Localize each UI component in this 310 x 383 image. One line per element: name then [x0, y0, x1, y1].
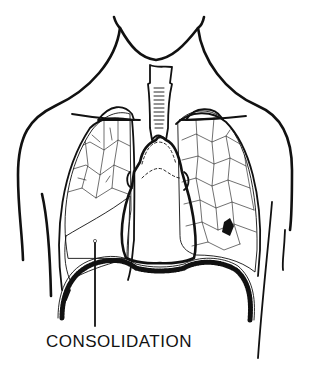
trachea — [148, 65, 172, 140]
chest-illustration — [0, 0, 310, 383]
consolidated-region — [65, 196, 130, 280]
right-lung — [59, 107, 134, 300]
diaphragm — [58, 256, 254, 320]
neck-outline — [114, 17, 204, 60]
consolidation-label: CONSOLIDATION — [46, 332, 192, 352]
leader-line — [93, 239, 96, 326]
small-lesion — [222, 218, 234, 236]
